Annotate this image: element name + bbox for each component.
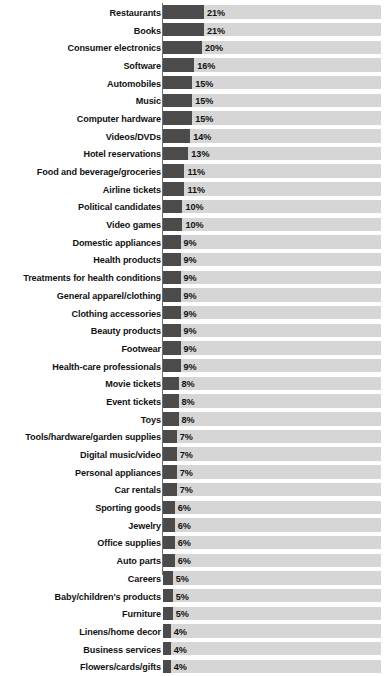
value-bar — [163, 129, 190, 142]
category-label: Software — [123, 61, 161, 71]
value-label: 21% — [207, 26, 225, 36]
chart-row: Software16% — [0, 57, 387, 75]
category-label: Event tickets — [106, 397, 161, 407]
value-label: 15% — [195, 79, 213, 89]
category-label: Baby/children's products — [55, 592, 161, 602]
value-label: 20% — [205, 43, 223, 53]
chart-row: Books21% — [0, 22, 387, 40]
category-label: Consumer electronics — [67, 43, 161, 53]
chart-row: Furniture5% — [0, 605, 387, 623]
bar-track — [163, 430, 381, 443]
value-label: 6% — [178, 503, 191, 513]
value-label: 4% — [174, 662, 187, 672]
bar-track — [163, 589, 381, 602]
category-label: Restaurants — [110, 8, 161, 18]
category-label: Political candidates — [78, 202, 161, 212]
bar-track — [163, 571, 381, 584]
bar-track — [163, 23, 381, 36]
category-label: Car rentals — [115, 485, 161, 495]
chart-row: Linens/home decor4% — [0, 623, 387, 641]
chart-row: Personal appliances7% — [0, 464, 387, 482]
category-label: Hotel reservations — [83, 149, 161, 159]
category-label: Business services — [83, 645, 161, 655]
category-label: Office supplies — [97, 538, 161, 548]
value-bar — [163, 447, 177, 460]
category-label: Auto parts — [117, 556, 161, 566]
value-bar — [163, 94, 192, 107]
value-label: 5% — [176, 574, 189, 584]
value-bar — [163, 271, 181, 284]
value-label: 16% — [197, 61, 215, 71]
chart-row: Footwear9% — [0, 340, 387, 358]
value-bar — [163, 182, 184, 195]
chart-row: Flowers/cards/gifts4% — [0, 658, 387, 676]
bar-track — [163, 41, 381, 54]
value-bar — [163, 111, 192, 124]
value-label: 7% — [180, 468, 193, 478]
value-bar — [163, 518, 175, 531]
bar-track — [163, 554, 381, 567]
category-label: Food and beverage/groceries — [37, 167, 161, 177]
chart-row: Toys8% — [0, 411, 387, 429]
bar-track — [163, 412, 381, 425]
category-label: Flowers/cards/gifts — [80, 662, 161, 672]
value-label: 6% — [178, 521, 191, 531]
category-label: Tools/hardware/garden supplies — [25, 432, 161, 442]
value-bar — [163, 200, 182, 213]
value-bar — [163, 23, 204, 36]
value-bar — [163, 501, 175, 514]
value-bar — [163, 41, 202, 54]
bar-track — [163, 465, 381, 478]
value-label: 9% — [184, 255, 197, 265]
value-label: 6% — [178, 556, 191, 566]
chart-row: Computer hardware15% — [0, 110, 387, 128]
category-label: Treatments for health conditions — [23, 273, 161, 283]
chart-row: Event tickets8% — [0, 393, 387, 411]
value-bar — [163, 554, 175, 567]
value-label: 11% — [187, 185, 205, 195]
value-label: 8% — [182, 415, 195, 425]
value-label: 9% — [184, 362, 197, 372]
value-bar — [163, 642, 171, 655]
chart-row: Restaurants21% — [0, 4, 387, 22]
value-label: 13% — [191, 149, 209, 159]
chart-row: Movie tickets8% — [0, 375, 387, 393]
value-label: 9% — [184, 309, 197, 319]
chart-row: General apparel/clothing9% — [0, 287, 387, 305]
chart-rows: Restaurants21%Books21%Consumer electroni… — [0, 4, 387, 676]
chart-row: Digital music/video7% — [0, 446, 387, 464]
bar-track — [163, 660, 381, 673]
value-label: 7% — [180, 485, 193, 495]
bar-track — [163, 624, 381, 637]
value-bar — [163, 164, 184, 177]
category-label: General apparel/clothing — [57, 291, 161, 301]
chart-row: Clothing accessories9% — [0, 305, 387, 323]
chart-row: Political candidates10% — [0, 199, 387, 217]
value-label: 7% — [180, 432, 193, 442]
chart-row: Jewelry6% — [0, 517, 387, 535]
bar-track — [163, 58, 381, 71]
value-bar — [163, 76, 192, 89]
category-label: Personal appliances — [75, 468, 161, 478]
category-label: Jewelry — [128, 521, 161, 531]
chart-row: Business services4% — [0, 641, 387, 659]
value-bar — [163, 288, 181, 301]
category-label: Footwear — [121, 344, 161, 354]
value-label: 9% — [184, 238, 197, 248]
value-bar — [163, 341, 181, 354]
category-label: Furniture — [122, 609, 161, 619]
value-bar — [163, 430, 177, 443]
bar-track — [163, 447, 381, 460]
value-label: 4% — [174, 627, 187, 637]
value-bar — [163, 483, 177, 496]
value-label: 9% — [184, 291, 197, 301]
chart-row: Health products9% — [0, 252, 387, 270]
chart-row: Videos/DVDs14% — [0, 128, 387, 146]
chart-row: Health-care professionals9% — [0, 358, 387, 376]
value-label: 5% — [176, 609, 189, 619]
category-label: Automobiles — [107, 79, 161, 89]
value-label: 15% — [195, 114, 213, 124]
category-label: Music — [136, 96, 161, 106]
category-label: Careers — [128, 574, 161, 584]
